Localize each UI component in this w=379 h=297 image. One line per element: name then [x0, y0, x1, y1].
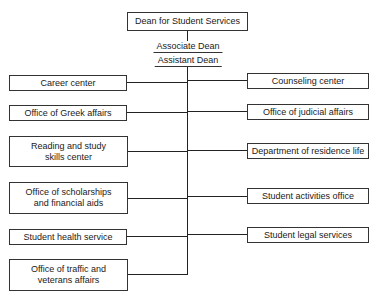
traffic-veterans-label-1: Office of traffic and: [31, 264, 106, 275]
assistant-dean-label: Assistant Dean: [155, 55, 222, 67]
connector-career: [127, 82, 188, 83]
dean-label: Dean for Student Services: [135, 16, 240, 27]
health-service-box: Student health service: [9, 229, 127, 245]
judicial-affairs-label: Office of judicial affairs: [263, 107, 353, 118]
residence-life-box: Department of residence life: [247, 143, 369, 159]
judicial-affairs-box: Office of judicial affairs: [247, 104, 369, 120]
reading-study-label-1: Reading and study: [31, 141, 106, 152]
scholarships-box: Office of scholarships and financial aid…: [9, 182, 128, 214]
counseling-center-box: Counseling center: [247, 73, 369, 89]
connector-judicial: [187, 111, 248, 112]
greek-affairs-box: Office of Greek affairs: [9, 105, 127, 121]
connector-activities: [187, 196, 248, 197]
reading-study-label-2: skills center: [45, 152, 92, 163]
traffic-veterans-label-2: veterans affairs: [38, 275, 99, 286]
dean-box: Dean for Student Services: [127, 12, 248, 31]
legal-services-box: Student legal services: [247, 227, 369, 243]
greek-affairs-label: Office of Greek affairs: [24, 108, 111, 119]
connector-greek: [127, 112, 188, 113]
career-center-box: Career center: [9, 75, 127, 91]
connector-scholarships: [128, 198, 188, 199]
student-activities-box: Student activities office: [247, 188, 369, 204]
legal-services-label: Student legal services: [264, 230, 352, 241]
scholarships-label-2: and financial aids: [34, 198, 104, 209]
residence-life-label: Department of residence life: [252, 146, 365, 157]
trunk-main: [187, 56, 188, 275]
connector-counseling: [187, 80, 248, 81]
connector-reading: [128, 151, 188, 152]
scholarships-label-1: Office of scholarships: [26, 187, 112, 198]
health-service-label: Student health service: [23, 232, 112, 243]
traffic-veterans-box: Office of traffic and veterans affairs: [9, 259, 128, 291]
student-activities-label: Student activities office: [262, 191, 354, 202]
connector-legal: [187, 234, 248, 235]
connector-traffic: [128, 274, 188, 275]
reading-study-box: Reading and study skills center: [9, 136, 128, 167]
career-center-label: Career center: [40, 78, 95, 89]
connector-residence: [187, 150, 248, 151]
connector-health: [127, 236, 188, 237]
associate-dean-label: Associate Dean: [153, 41, 222, 53]
counseling-center-label: Counseling center: [272, 76, 345, 87]
